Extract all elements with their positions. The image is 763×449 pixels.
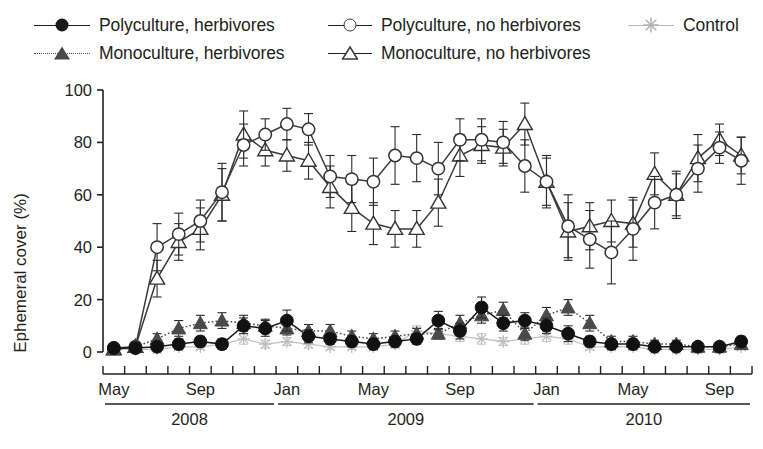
legend-label: Polyculture, no herbivores [381, 15, 581, 36]
data-point-marker [454, 134, 466, 146]
legend-item-polyculture-no-herbivores: Polyculture, no herbivores [328, 12, 581, 38]
data-point-marker [281, 118, 293, 130]
data-point-marker [237, 139, 249, 151]
error-bars [109, 103, 745, 352]
data-point-marker [302, 330, 315, 343]
series-line [114, 308, 741, 349]
y-axis-title: Ephemeral cover (%) [11, 193, 30, 353]
x-year-label: 2010 [625, 410, 662, 428]
y-tick-label: 20 [74, 291, 92, 309]
x-month-label: Jan [533, 380, 560, 398]
data-point-marker [540, 176, 552, 188]
legend-label: Control [683, 15, 739, 36]
x-month-label: Sep [186, 380, 215, 398]
data-point-marker [346, 173, 358, 185]
ephemeral-cover-line-chart: 020406080100 Ephemeral cover (%) MaySepJ… [0, 78, 763, 449]
data-point-marker [605, 338, 618, 351]
legend-item-polyculture-herbivores: Polyculture, herbivores [34, 12, 275, 38]
chart-legend: Polyculture, herbivores Monoculture, her… [0, 0, 763, 78]
data-point-marker [281, 335, 293, 347]
legend-label: Monoculture, no herbivores [381, 43, 590, 64]
figure-root: Polyculture, herbivores Monoculture, her… [0, 0, 763, 449]
data-point-marker [518, 314, 531, 327]
x-month-label: Sep [445, 380, 474, 398]
data-point-marker [151, 340, 164, 353]
data-point-marker [259, 322, 272, 335]
data-point-marker [216, 186, 228, 198]
data-point-marker [475, 134, 487, 146]
y-axis: 020406080100 [64, 81, 103, 361]
data-point-marker [562, 327, 575, 340]
x-month-label: May [98, 380, 130, 398]
y-tick-label: 100 [64, 81, 92, 99]
x-axis: MaySepJanMaySepJanMaySep200820092010 [98, 366, 752, 428]
series-line [114, 124, 741, 349]
x-year-label: 2009 [388, 410, 425, 428]
data-point-marker [367, 338, 380, 351]
data-point-marker [324, 333, 337, 346]
data-point-marker [692, 162, 704, 174]
data-point-marker [107, 342, 120, 355]
data-point-marker [692, 340, 705, 353]
data-point-marker [496, 303, 510, 316]
data-point-marker [237, 333, 249, 345]
x-month-label: May [617, 380, 649, 398]
data-point-marker [366, 216, 381, 229]
data-point-marker [302, 123, 314, 135]
data-point-marker [259, 128, 271, 140]
data-point-marker [562, 220, 574, 232]
legend-item-monoculture-herbivores: Monoculture, herbivores [34, 40, 284, 66]
x-year-label: 2008 [171, 410, 208, 428]
series-line [114, 124, 741, 348]
legend-key-open-triangle-icon [328, 40, 372, 66]
data-point-marker [237, 319, 250, 332]
data-point-marker [735, 155, 747, 167]
data-point-marker [713, 141, 725, 153]
data-point-marker [648, 196, 660, 208]
data-point-marker [129, 342, 142, 355]
data-point-marker [431, 195, 446, 208]
data-point-marker [713, 340, 726, 353]
legend-item-control: Control [628, 12, 739, 38]
data-point-marker [497, 317, 510, 330]
data-point-marker [605, 246, 617, 258]
data-point-marker [627, 338, 640, 351]
data-point-marker [497, 136, 509, 148]
data-point-marker [367, 176, 379, 188]
data-point-marker [584, 233, 596, 245]
data-point-marker [194, 335, 207, 348]
data-point-marker [280, 314, 293, 327]
legend-label: Polyculture, herbivores [99, 15, 275, 36]
data-point-marker [259, 338, 271, 350]
data-point-marker [216, 338, 229, 351]
data-point-marker [215, 314, 229, 327]
legend-key-open-circle-icon [328, 12, 372, 38]
y-tick-label: 0 [83, 343, 92, 361]
chart-plot-area: 020406080100 Ephemeral cover (%) MaySepJ… [0, 78, 763, 449]
data-point-marker [627, 223, 639, 235]
data-series-group [106, 103, 748, 355]
data-point-marker [540, 319, 553, 332]
data-point-marker [432, 314, 445, 327]
data-point-marker [735, 335, 748, 348]
legend-key-filled-circle-icon [34, 12, 90, 38]
data-point-marker [151, 241, 163, 253]
data-point-marker [432, 162, 444, 174]
data-point-marker [345, 335, 358, 348]
data-point-marker [670, 340, 683, 353]
data-point-marker [173, 228, 185, 240]
legend-key-star-icon [628, 12, 674, 38]
data-point-marker [475, 301, 488, 314]
data-point-marker [410, 333, 423, 346]
data-point-marker [648, 340, 661, 353]
y-tick-label: 60 [74, 186, 92, 204]
legend-item-monoculture-no-herbivores: Monoculture, no herbivores [328, 40, 590, 66]
data-point-marker [389, 149, 401, 161]
data-point-marker [519, 160, 531, 172]
data-point-marker [670, 189, 682, 201]
legend-label: Monoculture, herbivores [99, 43, 284, 64]
data-point-marker [475, 333, 487, 345]
data-point-marker [583, 335, 596, 348]
data-point-marker [324, 170, 336, 182]
data-point-marker [583, 316, 597, 329]
